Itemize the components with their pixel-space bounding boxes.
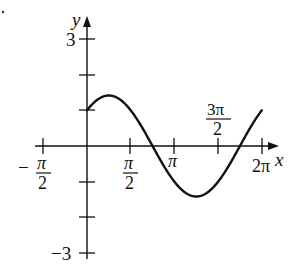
y-axis-label: y — [70, 9, 81, 30]
svg-text:3π: 3π — [207, 100, 225, 119]
y-axis-arrow-icon — [83, 16, 91, 27]
stray-dot — [2, 11, 4, 13]
x-axis-label: x — [274, 149, 284, 170]
svg-text:π: π — [124, 153, 134, 173]
y-tick-label-neg3: −3 — [51, 243, 71, 264]
svg-text:−: − — [18, 157, 29, 178]
x-tick-label-pi: π — [168, 151, 178, 171]
x-tick-label-neg-half-pi: − π 2 — [18, 153, 51, 193]
x-tick-label-three-half-pi: 3π 2 — [206, 100, 231, 139]
x-tick-label-two-pi: 2π — [252, 156, 270, 176]
svg-text:2: 2 — [38, 173, 47, 193]
svg-text:2: 2 — [213, 119, 222, 139]
svg-text:π: π — [37, 153, 47, 173]
x-tick-label-half-pi: π 2 — [123, 153, 138, 193]
y-tick-label-3: 3 — [66, 29, 76, 50]
function-graph: y x 3 −3 − π 2 π 2 π 3π 2 2π — [0, 0, 292, 276]
svg-text:2: 2 — [125, 173, 134, 193]
